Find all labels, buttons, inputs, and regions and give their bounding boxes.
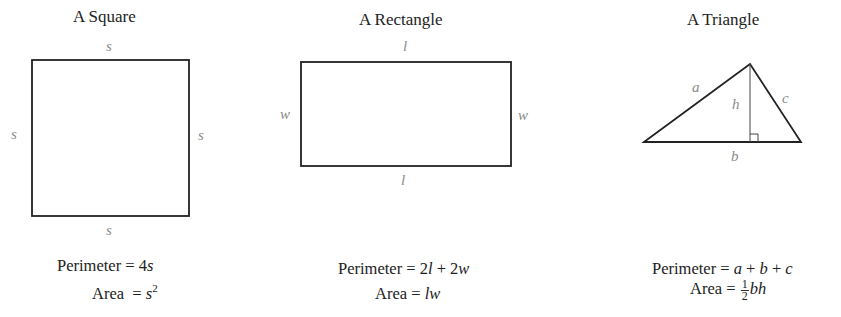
area-prefix: Area = <box>690 279 740 298</box>
area-exponent: 2 <box>152 282 158 294</box>
square-area: Area = s2 <box>92 282 158 304</box>
triangle-label-a: a <box>692 79 700 96</box>
plus-sign: + <box>768 259 786 278</box>
perimeter-var: w <box>458 259 469 278</box>
triangle-label-b: b <box>731 148 739 165</box>
square-title: A Square <box>73 7 136 27</box>
perimeter-var: b <box>760 259 768 278</box>
perimeter-var: s <box>147 256 153 275</box>
rectangle-area: Area = lw <box>375 284 440 304</box>
rectangle-label-bottom: l <box>401 172 405 189</box>
rectangle-perimeter: Perimeter = 2l + 2w <box>338 259 469 279</box>
area-expr: bh <box>750 279 767 298</box>
perimeter-term: 2 <box>420 259 428 278</box>
triangle-area: Area = 12bh <box>690 279 766 302</box>
rectangle-label-top: l <box>403 38 407 55</box>
right-angle-marker <box>750 134 758 142</box>
square-label-top: s <box>106 38 112 55</box>
fraction-denominator: 2 <box>741 291 749 302</box>
perimeter-prefix: Perimeter = <box>652 259 734 278</box>
square-label-bottom: s <box>106 222 112 239</box>
fraction-one-half: 12 <box>741 279 749 302</box>
rectangle-title: A Rectangle <box>359 10 443 30</box>
plus-sign: + <box>742 259 760 278</box>
square-label-right: s <box>198 127 204 144</box>
area-prefix: Area = <box>92 284 146 303</box>
perimeter-var: a <box>734 259 742 278</box>
perimeter-prefix: Perimeter = <box>338 259 420 278</box>
triangle-shape <box>644 64 801 142</box>
area-expr: lw <box>425 284 441 303</box>
triangle-label-h: h <box>732 96 740 113</box>
triangle-perimeter: Perimeter = a + b + c <box>652 259 793 279</box>
square-shape <box>32 60 189 216</box>
square-perimeter: Perimeter = 4s <box>57 256 153 276</box>
area-prefix: Area = <box>375 284 425 303</box>
rectangle-label-right: w <box>518 107 528 124</box>
perimeter-prefix: Perimeter = <box>57 256 139 275</box>
perimeter-coef: 4 <box>139 256 147 275</box>
rectangle-shape <box>301 62 511 166</box>
perimeter-term: + 2 <box>433 259 459 278</box>
rectangle-label-left: w <box>280 106 290 123</box>
perimeter-var: c <box>785 259 792 278</box>
triangle-title: A Triangle <box>687 10 759 30</box>
triangle-label-c: c <box>782 90 789 107</box>
square-label-left: s <box>11 126 17 143</box>
